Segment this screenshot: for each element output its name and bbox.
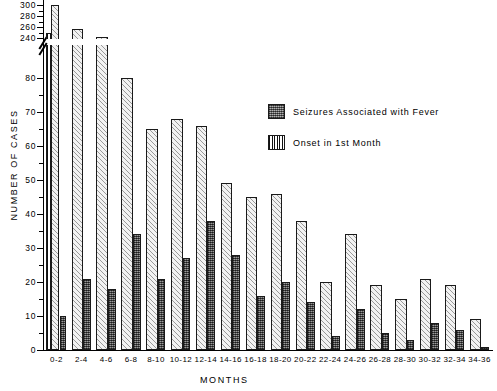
x-axis-label: 34-36 bbox=[461, 355, 497, 364]
y-280-label: 280 bbox=[20, 11, 36, 21]
y-50-label: 50 bbox=[25, 175, 36, 185]
bar-fever bbox=[382, 333, 390, 350]
bar-chart: NUMBER OF CASES 010203040506070802402602… bbox=[0, 0, 497, 391]
bar-fever bbox=[207, 221, 215, 350]
y-minor-240-tick bbox=[39, 33, 43, 34]
bar-total bbox=[296, 221, 307, 350]
bar-fever bbox=[282, 282, 290, 350]
y-300-tick bbox=[37, 5, 43, 6]
y-20-label: 20 bbox=[25, 277, 36, 287]
y-70-label: 70 bbox=[25, 107, 36, 117]
y-80-label: 80 bbox=[25, 73, 36, 83]
bar-fever bbox=[481, 347, 489, 350]
y-60-label: 60 bbox=[25, 141, 36, 151]
y-10-tick bbox=[37, 316, 43, 317]
y-axis-title: NUMBER OF CASES bbox=[9, 75, 19, 255]
bar-total bbox=[196, 126, 207, 350]
y-20-tick bbox=[37, 282, 43, 283]
y-300-label: 300 bbox=[20, 0, 36, 10]
y-0-label: 0 bbox=[31, 345, 36, 355]
bar-fever bbox=[357, 309, 365, 350]
y-minor-50-tick bbox=[39, 163, 43, 164]
y-40-tick bbox=[37, 214, 43, 215]
y-260-label: 260 bbox=[20, 22, 36, 32]
bar-total bbox=[320, 282, 331, 350]
legend: Seizures Associated with Fever Onset in … bbox=[268, 104, 439, 166]
y-minor-280-tick bbox=[39, 11, 43, 12]
bar-fever bbox=[108, 289, 116, 350]
y-50-tick bbox=[37, 180, 43, 181]
bar-fever bbox=[133, 234, 141, 350]
bar-total-upper bbox=[51, 5, 59, 39]
bar-total bbox=[345, 234, 356, 350]
y-10-label: 10 bbox=[25, 311, 36, 321]
x-axis-title: MONTHS bbox=[200, 375, 249, 385]
bar-total-upper bbox=[96, 37, 107, 39]
y-minor-20-tick bbox=[39, 265, 43, 266]
y-minor-70-tick bbox=[39, 95, 43, 96]
bar-fever bbox=[83, 279, 91, 350]
y-240-label: 240 bbox=[20, 33, 36, 43]
legend-item-fever: Seizures Associated with Fever bbox=[268, 104, 439, 119]
y-axis-line bbox=[43, 0, 44, 351]
y-60-tick bbox=[37, 146, 43, 147]
y-minor-260-tick bbox=[39, 22, 43, 23]
bar-total bbox=[121, 78, 132, 350]
bar-onset-first-month-upper bbox=[46, 33, 51, 40]
bar-total bbox=[470, 319, 481, 350]
bar-fever bbox=[232, 255, 240, 350]
y-0-tick bbox=[37, 350, 43, 351]
y-260-tick bbox=[37, 27, 43, 28]
bar-fever bbox=[60, 316, 65, 350]
legend-label-fever: Seizures Associated with Fever bbox=[293, 107, 439, 117]
legend-swatch-fever-icon bbox=[268, 104, 285, 119]
bar-total-upper bbox=[72, 29, 83, 39]
bar-total bbox=[420, 279, 431, 350]
y-80-tick bbox=[37, 78, 43, 79]
bar-total bbox=[246, 197, 257, 350]
bar-fever bbox=[307, 302, 315, 350]
y-minor-30-tick bbox=[39, 231, 43, 232]
bar-total bbox=[395, 299, 406, 350]
bar-onset-first-month bbox=[46, 45, 51, 350]
bar-total bbox=[271, 194, 282, 350]
legend-label-onset: Onset in 1st Month bbox=[293, 138, 381, 148]
y-minor-10-tick bbox=[39, 299, 43, 300]
bar-fever bbox=[183, 258, 191, 350]
bar-fever bbox=[456, 330, 464, 350]
bar-total bbox=[96, 45, 107, 350]
x-axis-line bbox=[43, 350, 493, 351]
bar-fever bbox=[407, 340, 415, 350]
bar-fever bbox=[332, 336, 340, 350]
bar-total bbox=[171, 119, 182, 350]
bar-total bbox=[72, 45, 83, 350]
y-70-tick bbox=[37, 112, 43, 113]
bar-fever bbox=[431, 323, 439, 350]
y-30-label: 30 bbox=[25, 243, 36, 253]
y-280-tick bbox=[37, 16, 43, 17]
y-minor-40-tick bbox=[39, 197, 43, 198]
y-30-tick bbox=[37, 248, 43, 249]
legend-swatch-onset-icon bbox=[268, 135, 285, 150]
bar-total bbox=[370, 285, 381, 350]
bar-total bbox=[146, 129, 157, 350]
bar-total bbox=[221, 183, 232, 350]
y-minor-0-tick bbox=[39, 333, 43, 334]
legend-item-onset: Onset in 1st Month bbox=[268, 135, 439, 150]
bar-total bbox=[445, 285, 456, 350]
y-minor-60-tick bbox=[39, 129, 43, 130]
bar-fever bbox=[257, 296, 265, 350]
bar-fever bbox=[158, 279, 166, 350]
y-240-tick bbox=[37, 38, 43, 39]
y-40-label: 40 bbox=[25, 209, 36, 219]
bar-total bbox=[51, 45, 59, 350]
